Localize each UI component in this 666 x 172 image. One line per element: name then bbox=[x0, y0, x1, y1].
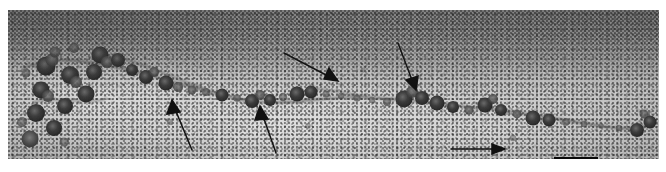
support-film-background bbox=[8, 10, 659, 159]
electron-micrograph-plate bbox=[8, 10, 659, 159]
figure-root bbox=[0, 0, 666, 172]
scale-bar bbox=[554, 157, 598, 159]
